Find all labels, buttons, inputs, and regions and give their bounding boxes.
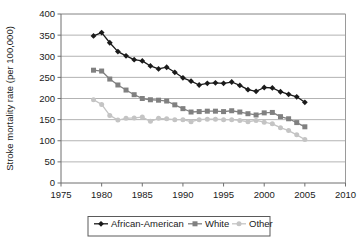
data-point-marker	[286, 116, 291, 121]
x-axis-tick-label: 2010	[335, 189, 356, 200]
data-point-marker	[205, 117, 210, 122]
data-point-marker	[302, 137, 307, 142]
data-point-marker	[99, 69, 104, 74]
data-point-marker	[262, 110, 267, 115]
data-point-marker	[270, 110, 275, 115]
data-point-marker	[229, 117, 234, 122]
data-point-marker	[278, 114, 283, 119]
legend-marker-square-icon	[193, 221, 198, 226]
y-axis-tick-label: 50	[44, 156, 55, 167]
data-point-marker	[172, 117, 177, 122]
data-point-marker	[156, 116, 161, 121]
x-axis-tick-label: 1980	[91, 189, 112, 200]
data-point-marker	[115, 118, 120, 123]
data-point-marker	[164, 116, 169, 121]
data-point-marker	[294, 132, 299, 137]
legend-label: African-American	[111, 218, 184, 229]
data-point-marker	[302, 124, 307, 129]
data-point-marker	[189, 110, 194, 115]
data-point-marker	[254, 112, 259, 117]
data-point-marker	[270, 121, 275, 126]
legend-label: Other	[249, 218, 273, 229]
data-point-marker	[221, 117, 226, 122]
y-axis-tick-label: 150	[39, 114, 55, 125]
legend: African-AmericanWhiteOther	[88, 217, 273, 237]
data-point-marker	[262, 120, 267, 125]
y-axis-tick-label: 100	[39, 135, 55, 146]
data-point-marker	[132, 115, 137, 120]
data-point-marker	[205, 109, 210, 114]
y-axis-tick-label: 0	[50, 177, 55, 188]
data-point-marker	[237, 110, 242, 115]
x-axis-tick-label: 1985	[132, 189, 153, 200]
y-axis-tick-label: 300	[39, 51, 55, 62]
data-point-marker	[124, 116, 129, 121]
data-point-marker	[91, 97, 96, 102]
data-point-marker	[189, 119, 194, 124]
y-axis: 050100150200250300350400	[39, 8, 61, 188]
data-point-marker	[180, 117, 185, 122]
data-point-marker	[164, 99, 169, 104]
data-point-marker	[221, 109, 226, 114]
y-axis-title: Stroke mortality rate (per 100,000)	[4, 26, 15, 171]
data-point-marker	[254, 118, 259, 123]
x-axis-tick-label: 1995	[213, 189, 234, 200]
x-axis-tick-label: 1975	[50, 189, 71, 200]
data-point-marker	[237, 118, 242, 123]
data-point-marker	[99, 102, 104, 107]
data-point-marker	[132, 92, 137, 97]
data-point-marker	[213, 117, 218, 122]
data-point-marker	[245, 119, 250, 124]
data-point-marker	[148, 119, 153, 124]
x-axis-tick-label: 2000	[254, 189, 275, 200]
data-point-marker	[229, 108, 234, 113]
y-axis-tick-label: 400	[39, 8, 55, 19]
data-point-marker	[278, 125, 283, 130]
data-point-marker	[115, 82, 120, 87]
chart-canvas: 0501001502002503003504001975198019851990…	[0, 0, 358, 244]
data-point-marker	[91, 68, 96, 73]
data-point-marker	[140, 96, 145, 101]
legend-marker-circle-icon	[237, 221, 242, 226]
data-point-marker	[294, 120, 299, 125]
x-axis-tick-label: 1990	[172, 189, 193, 200]
data-point-marker	[172, 102, 177, 107]
data-point-marker	[197, 109, 202, 114]
data-point-marker	[156, 98, 161, 103]
y-axis-tick-label: 350	[39, 30, 55, 41]
x-axis-tick-label: 2005	[294, 189, 315, 200]
stroke-mortality-chart-figure: 0501001502002503003504001975198019851990…	[0, 0, 358, 244]
y-axis-tick-label: 250	[39, 72, 55, 83]
data-point-marker	[148, 97, 153, 102]
data-point-marker	[197, 117, 202, 122]
legend-label: White	[205, 218, 229, 229]
data-point-marker	[107, 113, 112, 118]
data-point-marker	[124, 88, 129, 93]
x-axis: 19751980198519901995200020052010	[50, 183, 356, 200]
data-point-marker	[286, 128, 291, 133]
data-point-marker	[107, 77, 112, 82]
data-point-marker	[140, 115, 145, 120]
data-point-marker	[213, 109, 218, 114]
data-point-marker	[245, 111, 250, 116]
y-axis-tick-label: 200	[39, 93, 55, 104]
data-point-marker	[180, 106, 185, 111]
